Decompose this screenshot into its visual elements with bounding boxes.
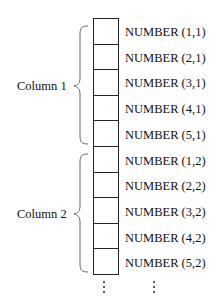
- cell-label: NUMBER (3,2): [125, 205, 206, 219]
- cell-label: NUMBER (4,1): [125, 102, 206, 116]
- ellipsis-labels: [152, 280, 156, 294]
- brace-column-2: [74, 154, 88, 272]
- cell-label: NUMBER (5,1): [125, 128, 206, 142]
- cell-label: NUMBER (4,2): [125, 231, 206, 245]
- cell-label: NUMBER (1,2): [125, 154, 206, 168]
- group-label-column-1: Column 1: [17, 79, 67, 93]
- ellipsis-stack: [102, 280, 106, 294]
- cell-label: NUMBER (2,1): [125, 51, 206, 65]
- cell-label: NUMBER (5,2): [125, 256, 206, 270]
- cell-label: NUMBER (2,2): [125, 179, 206, 193]
- cell-label: NUMBER (3,1): [125, 76, 206, 90]
- brace-column-1: [74, 26, 88, 144]
- group-label-column-2: Column 2: [17, 207, 67, 221]
- cell-label: NUMBER (1,1): [125, 25, 206, 39]
